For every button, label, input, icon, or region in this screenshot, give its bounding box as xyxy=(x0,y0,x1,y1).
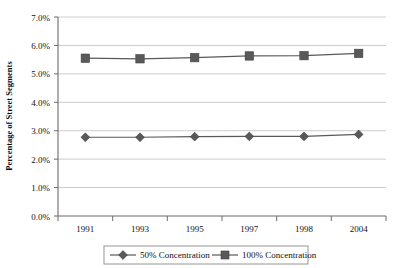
y-tick-label: 2.0% xyxy=(31,155,50,165)
series-100 xyxy=(81,49,363,63)
square-marker xyxy=(81,54,89,62)
diamond-marker xyxy=(354,130,363,139)
y-tick-label: 4.0% xyxy=(31,98,50,108)
y-tick-label: 3.0% xyxy=(31,126,50,136)
x-tick-label: 1993 xyxy=(131,224,150,234)
diamond-marker xyxy=(136,133,145,142)
diamond-marker xyxy=(245,132,254,141)
x-tick-label: 1997 xyxy=(240,224,259,234)
y-tick-marks xyxy=(54,17,58,216)
square-marker xyxy=(354,49,362,57)
diamond-marker xyxy=(81,133,90,142)
y-tick-label: 7.0% xyxy=(31,13,50,23)
series-line xyxy=(85,134,358,137)
series-layer xyxy=(81,49,363,141)
line-chart: 7.0% 6.0% 5.0% 4.0% 3.0% 2.0% 1.0% 0.0% … xyxy=(0,0,400,268)
legend-label-100: 100% Concentration xyxy=(242,250,317,260)
square-marker xyxy=(190,53,198,61)
x-tick-label: 2004 xyxy=(350,224,369,234)
legend: 50% Concentration 100% Concentration xyxy=(104,246,317,264)
x-tick-label: 1991 xyxy=(76,224,94,234)
x-tick-label: 1998 xyxy=(295,224,314,234)
gridlines xyxy=(58,17,386,188)
y-axis-title: Percentage of Street Segments xyxy=(4,61,14,171)
series-50 xyxy=(81,130,363,142)
y-tick-label: 1.0% xyxy=(31,183,50,193)
legend-label-50: 50% Concentration xyxy=(140,250,210,260)
square-marker xyxy=(221,251,229,259)
y-tick-label: 0.0% xyxy=(31,212,50,222)
square-marker xyxy=(245,52,253,60)
series-line xyxy=(85,53,358,58)
y-tick-label: 6.0% xyxy=(31,41,50,51)
x-tick-label: 1995 xyxy=(186,224,205,234)
diamond-marker xyxy=(300,132,309,141)
x-axis-tick-labels: 1991 1993 1995 1997 1998 2004 xyxy=(76,224,368,234)
y-axis-tick-labels: 7.0% 6.0% 5.0% 4.0% 3.0% 2.0% 1.0% 0.0% xyxy=(31,13,50,222)
y-tick-label: 5.0% xyxy=(31,69,50,79)
diamond-marker xyxy=(190,132,199,141)
chart-canvas: 7.0% 6.0% 5.0% 4.0% 3.0% 2.0% 1.0% 0.0% … xyxy=(0,0,400,268)
x-tick-marks xyxy=(58,216,386,221)
square-marker xyxy=(300,51,308,59)
square-marker xyxy=(136,55,144,63)
